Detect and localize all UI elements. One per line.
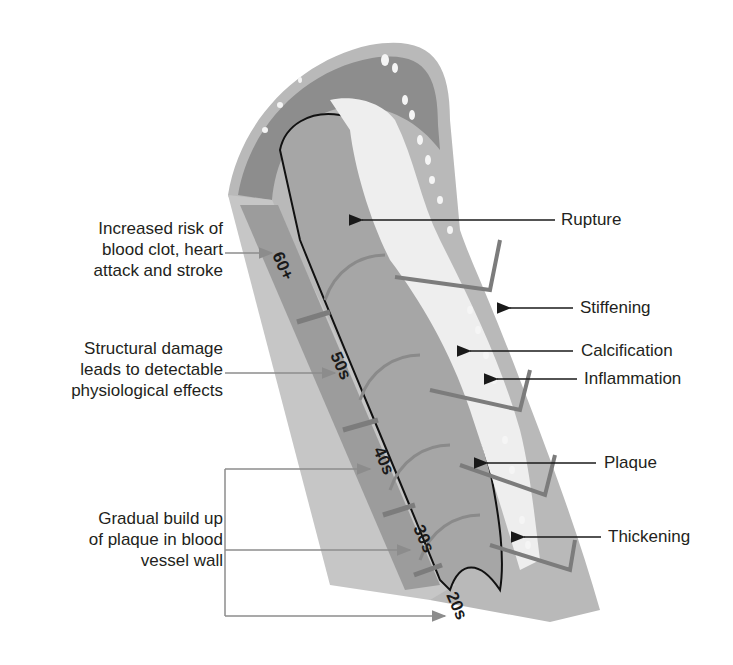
label-rupture: Rupture bbox=[561, 209, 621, 230]
label-inflammation: Inflammation bbox=[584, 368, 681, 389]
label-stiffening: Stiffening bbox=[580, 297, 651, 318]
artery-diagram: 60+ 50s 40s 30s 20s Increased risk of bbox=[0, 0, 733, 665]
label-thickening: Thickening bbox=[608, 526, 690, 547]
annotation-gradual-buildup: Gradual build up of plaque in blood vess… bbox=[0, 508, 223, 571]
annotation-structural-damage: Structural damage leads to detectable ph… bbox=[0, 338, 223, 401]
label-plaque: Plaque bbox=[604, 452, 657, 473]
annotation-risk: Increased risk of blood clot, heart atta… bbox=[0, 218, 223, 281]
label-calcification: Calcification bbox=[581, 340, 673, 361]
